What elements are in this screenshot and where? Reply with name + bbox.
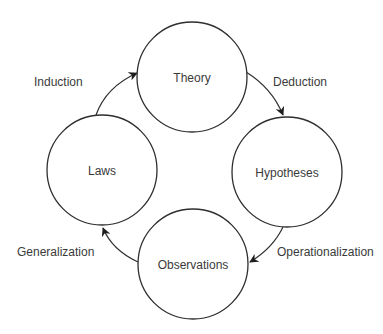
node-observations-label: Observations: [158, 258, 229, 272]
edge-label-induction: Induction: [34, 75, 83, 89]
node-laws: Laws: [47, 115, 157, 225]
node-theory-label: Theory: [173, 71, 210, 85]
edge-label-deduction: Deduction: [273, 75, 327, 89]
edge-label-generalization: Generalization: [17, 245, 94, 259]
node-hypotheses-label: Hypotheses: [255, 166, 318, 180]
edge-generalization-arrow: [103, 228, 138, 262]
node-observations: Observations: [138, 209, 248, 319]
node-laws-label: Laws: [88, 164, 116, 178]
edge-induction-arrow: [96, 73, 137, 115]
node-hypotheses: Hypotheses: [232, 117, 342, 227]
research-cycle-diagram: Theory Hypotheses Observations Laws Dedu…: [0, 0, 383, 334]
node-theory: Theory: [137, 22, 247, 132]
edge-label-operationalization: Operationalization: [277, 245, 374, 259]
